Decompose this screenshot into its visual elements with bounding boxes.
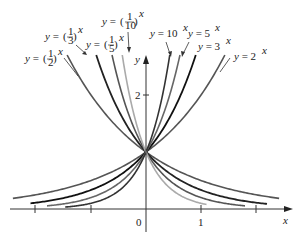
svg-text:x: x: [118, 31, 124, 43]
svg-text:(: (: [43, 52, 47, 65]
y-axis-label: y: [134, 53, 140, 65]
svg-text:y =: y =: [44, 30, 59, 42]
svg-text:(: (: [120, 15, 124, 28]
svg-text:): ): [53, 52, 57, 65]
label-third: y = ( 1 3 ) x: [44, 23, 83, 46]
svg-text:x: x: [225, 34, 231, 46]
svg-text:): ): [73, 30, 77, 43]
svg-text:y = 10: y = 10: [149, 27, 178, 39]
label-tenth-arrow-icon: [127, 47, 131, 53]
label-half: y = ( 1 2 ) x: [24, 45, 63, 68]
svg-text:y = 2: y = 2: [233, 50, 256, 62]
svg-text:(: (: [104, 38, 108, 51]
label-five: y = 5 x: [187, 21, 220, 39]
label-tenth: y = ( 1 10 ) x: [101, 7, 144, 31]
label-two: y = 2 x: [233, 44, 267, 62]
svg-text:y =: y =: [101, 15, 116, 27]
svg-text:x: x: [77, 23, 83, 35]
x-axis-label: x: [282, 214, 288, 226]
x-tick-label-1: 1: [198, 216, 204, 228]
svg-text:y = 3: y = 3: [197, 40, 221, 52]
svg-text:x: x: [214, 21, 220, 33]
svg-text:y =: y =: [85, 38, 100, 50]
y-tick-label-2: 2: [135, 89, 141, 101]
x-axis-arrow-icon: [284, 206, 293, 212]
svg-text:): ): [114, 38, 118, 51]
svg-text:y =: y =: [24, 52, 39, 64]
curve-y-5-x: [47, 55, 180, 206]
label-fifth: y = ( 1 5 ) x: [85, 31, 124, 54]
y-axis-arrow-icon: [143, 55, 149, 64]
svg-text:x: x: [261, 44, 267, 56]
curve-y-1-5-x: [112, 55, 245, 206]
origin-label: 0: [136, 216, 142, 228]
svg-text:x: x: [138, 7, 144, 19]
label-ten: y = 10 x: [149, 21, 188, 39]
label-five-arrow-icon: [181, 51, 185, 57]
svg-text:): ): [134, 15, 138, 28]
exponential-functions-chart: 0 1 2 x y y = ( 1 2 ) x y = ( 1 3 ) x y …: [0, 0, 301, 241]
svg-text:x: x: [57, 45, 63, 57]
svg-text:(: (: [63, 30, 67, 43]
svg-text:y = 5: y = 5: [187, 27, 211, 39]
